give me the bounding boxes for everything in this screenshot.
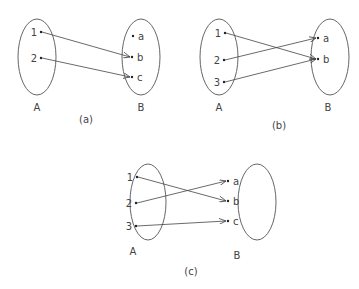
domain-element-label: 1 — [215, 28, 221, 39]
codomain-point-c — [131, 76, 133, 78]
mapping-arrow-2-to-a — [225, 38, 316, 60]
mapping-diagrams: 12abcAB(a)123abAB(b)123abcAB(c) — [0, 0, 359, 289]
domain-point-2 — [40, 57, 42, 59]
domain-element-label: 3 — [214, 77, 220, 88]
codomain-element-label: a — [323, 33, 329, 44]
codomain-element-label: b — [233, 196, 239, 207]
codomain-point-a — [132, 35, 134, 37]
codomain-point-a — [227, 180, 229, 182]
mapping-arrow-1-to-b — [138, 177, 226, 201]
codomain-point-a — [317, 37, 319, 39]
set-B-label: B — [325, 102, 332, 113]
set-B-label: B — [234, 250, 241, 261]
set-A-label: A — [34, 102, 41, 113]
domain-point-2 — [223, 59, 225, 61]
codomain-element-label: c — [233, 216, 239, 227]
domain-element-label: 2 — [126, 198, 132, 209]
codomain-point-b — [227, 200, 229, 202]
set-B-ellipse-c — [238, 164, 276, 240]
domain-point-1 — [136, 176, 138, 178]
codomain-point-b — [317, 58, 319, 60]
set-A-ellipse-a — [18, 19, 56, 95]
codomain-element-label: b — [137, 52, 143, 63]
set-A-label: A — [130, 246, 137, 257]
set-A-label: A — [216, 102, 223, 113]
diagram-caption: (a) — [79, 114, 93, 125]
codomain-element-label: b — [323, 54, 329, 65]
domain-element-label: 1 — [31, 27, 37, 38]
set-B-ellipse-b — [311, 19, 349, 95]
mapping-arrow-3-to-c — [137, 221, 226, 226]
codomain-element-label: a — [138, 31, 144, 42]
domain-point-2 — [135, 202, 137, 204]
diagram-caption: (b) — [272, 120, 286, 131]
domain-element-label: 2 — [31, 53, 37, 64]
codomain-point-b — [131, 56, 133, 58]
domain-point-1 — [40, 31, 42, 33]
diagram-caption: (c) — [184, 266, 197, 277]
mapping-arrow-1-to-b — [226, 33, 316, 59]
codomain-element-label: c — [137, 72, 143, 83]
domain-element-label: 1 — [127, 172, 133, 183]
domain-point-3 — [135, 225, 137, 227]
mapping-arrow-3-to-b — [225, 59, 316, 82]
domain-point-1 — [224, 32, 226, 34]
set-B-label: B — [138, 102, 145, 113]
mapping-arrow-2-to-a — [137, 181, 226, 203]
domain-element-label: 2 — [214, 55, 220, 66]
codomain-element-label: a — [233, 176, 239, 187]
domain-element-label: 3 — [126, 221, 132, 232]
domain-point-3 — [223, 81, 225, 83]
codomain-point-c — [227, 220, 229, 222]
